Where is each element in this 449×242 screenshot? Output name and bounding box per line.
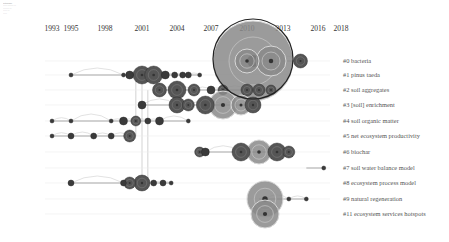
node-core (152, 74, 155, 77)
node-core (135, 120, 137, 122)
node-core (141, 74, 144, 77)
cluster-label[interactable]: #5 net ecosystem productivity (343, 132, 421, 139)
year-tick: 1993 (45, 24, 60, 33)
node-core (193, 89, 195, 91)
timeline-chart: 1993199519982001200420072010201320162018… (0, 0, 449, 242)
citation-node[interactable] (69, 119, 73, 123)
node-core (276, 151, 279, 154)
citation-node[interactable] (120, 117, 128, 125)
citation-node[interactable] (156, 117, 164, 125)
citation-node[interactable] (198, 73, 202, 77)
node-core (158, 89, 160, 91)
cluster-lanes (45, 61, 330, 214)
node-core (221, 103, 225, 107)
year-tick: 2004 (170, 24, 185, 33)
citation-arc (71, 68, 124, 75)
cluster-label[interactable]: #8 ecosystem process model (343, 179, 416, 186)
citation-node[interactable] (109, 119, 113, 123)
year-tick: 2007 (204, 24, 219, 33)
citation-node[interactable] (138, 101, 146, 109)
citation-node[interactable] (169, 181, 173, 185)
year-tick: 2001 (135, 24, 150, 33)
node-core (187, 104, 189, 106)
citation-node[interactable] (186, 119, 190, 123)
citation-node[interactable] (287, 197, 291, 201)
citation-node[interactable] (201, 148, 209, 156)
citation-node[interactable] (185, 72, 191, 78)
cluster-label[interactable]: #9 natural regeneration (343, 195, 403, 202)
citation-node[interactable] (172, 72, 178, 78)
node-core (246, 89, 248, 91)
node-core (252, 104, 254, 106)
citation-node[interactable] (69, 73, 73, 77)
year-tick: 2018 (334, 24, 349, 33)
node-core (199, 151, 201, 153)
node-core (299, 60, 301, 62)
cluster-label[interactable]: #1 pinus taeda (343, 71, 380, 78)
cluster-labels: #0 bacteria#1 pinus taeda#2 soil aggrega… (343, 57, 426, 217)
citation-node[interactable] (122, 73, 126, 77)
node-core (245, 59, 249, 63)
citation-node[interactable] (50, 119, 54, 123)
citation-node[interactable] (304, 197, 308, 201)
citation-node[interactable] (91, 133, 97, 139)
citation-node[interactable] (126, 71, 134, 79)
node-core (141, 182, 143, 184)
citation-node[interactable] (180, 72, 186, 78)
citation-node[interactable] (68, 180, 74, 186)
citation-arc (160, 116, 189, 121)
node-core (263, 212, 267, 216)
year-tick: 1995 (64, 24, 79, 33)
node-core (258, 89, 260, 91)
citation-arc (71, 176, 124, 183)
node-core (257, 150, 261, 154)
citation-node[interactable] (151, 180, 157, 186)
cluster-label[interactable]: #3 [soil] enrichment (343, 101, 395, 108)
node-core (176, 89, 179, 92)
citation-node[interactable] (108, 133, 114, 139)
citation-node[interactable] (121, 180, 127, 186)
node-core (270, 89, 272, 91)
node-core (129, 135, 131, 137)
citation-arc (71, 132, 94, 136)
citation-node[interactable] (50, 134, 54, 138)
node-core (129, 182, 131, 184)
year-tick: 1998 (98, 24, 113, 33)
node-core (240, 151, 243, 154)
citation-node[interactable] (68, 133, 74, 139)
cluster-label[interactable]: #6 biochar (343, 148, 371, 155)
node-core (176, 104, 178, 106)
year-axis: 1993199519982001200420072010201320162018 (45, 24, 349, 33)
cluster-label[interactable]: #2 soil aggregates (343, 86, 390, 93)
year-tick: 2016 (311, 24, 326, 33)
node-core (288, 151, 290, 153)
cluster-label[interactable]: #4 soil organic matter (343, 117, 400, 124)
citation-arc (71, 114, 111, 121)
cluster-label[interactable]: #7 soil water balance model (343, 164, 415, 171)
citation-node[interactable] (207, 86, 215, 94)
citation-node[interactable] (160, 180, 166, 186)
citation-node[interactable] (161, 71, 169, 79)
node-core (204, 104, 207, 107)
citation-node[interactable] (322, 166, 326, 170)
citation-node[interactable] (145, 118, 151, 124)
node-core (269, 59, 274, 64)
node-core (240, 104, 243, 107)
cluster-label[interactable]: #11 ecosystem services hotspots (343, 210, 426, 217)
cluster-label[interactable]: #0 bacteria (343, 57, 371, 64)
